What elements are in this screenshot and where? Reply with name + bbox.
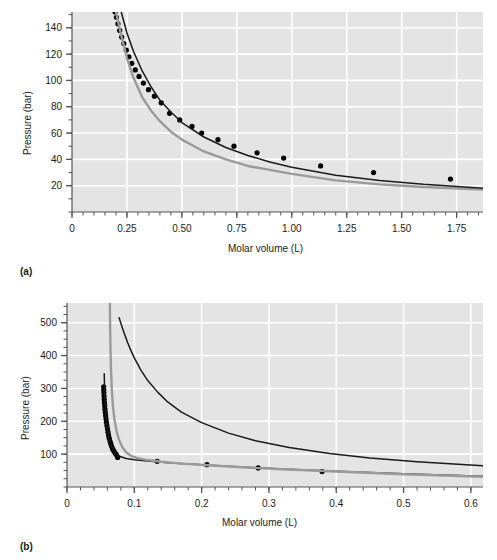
- plot-b-y-tick-label: 500: [40, 317, 57, 328]
- plot-b-y-tick-label: 100: [40, 449, 57, 460]
- plot-b-x-axis-title: Molar volume (L): [222, 517, 297, 528]
- plot-a-y-tick-label: 20: [51, 180, 63, 191]
- plot-a-y-tick-label: 100: [45, 75, 62, 86]
- plot-b-y-tick-label: 200: [40, 416, 57, 427]
- plot-b-x-tick-label: 0.1: [127, 498, 141, 509]
- plot-b-x-tick-label: 0.4: [329, 498, 343, 509]
- plot-a-y-tick-label: 120: [45, 49, 62, 60]
- plot-a-data-point: [133, 67, 138, 72]
- plot-a-x-tick-label: 1.00: [282, 223, 302, 234]
- plot-b-y-tick-label: 300: [40, 383, 57, 394]
- plot-a-data-point: [146, 87, 151, 92]
- plot-b-y-axis-title: Pressure (bar): [20, 376, 31, 440]
- plot-a-data-point: [136, 74, 141, 79]
- plot-a-y-tick-label: 60: [51, 128, 63, 139]
- plot-a-x-tick-label: 1.25: [337, 223, 357, 234]
- plot-b-caption: (b): [20, 541, 33, 552]
- plot-a-x-tick-label: 1.75: [447, 223, 467, 234]
- plot-a-data-point: [141, 80, 146, 85]
- plot-a-caption: (a): [20, 266, 32, 277]
- panel-b: 00.10.20.30.40.50.6100200300400500 Press…: [0, 285, 497, 560]
- plot-a-data-point: [448, 177, 453, 182]
- plot-b-x-tick-label: 0.3: [262, 498, 276, 509]
- plot-a-y-axis-title: Pressure (bar): [22, 91, 33, 155]
- plot-a-data-point: [254, 150, 259, 155]
- plot-b-y-tick-label: 400: [40, 350, 57, 361]
- plot-b-x-tick-label: 0.6: [464, 498, 478, 509]
- plot-a-x-tick-label: 0.25: [117, 223, 137, 234]
- plot-b-x-tick-label: 0.5: [397, 498, 411, 509]
- plot-a-data-point: [371, 170, 376, 175]
- plot-a-data-point: [231, 144, 236, 149]
- plot-a-data-point: [281, 155, 286, 160]
- plot-a-y-tick-label: 140: [45, 22, 62, 33]
- figure-root: 00.250.500.751.001.251.501.7520406080100…: [0, 0, 497, 560]
- panel-a: 00.250.500.751.001.251.501.7520406080100…: [0, 0, 497, 285]
- plot-b-x-tick-label: 0: [64, 498, 70, 509]
- plot-a-data-point: [215, 137, 220, 142]
- plot-a-plot-background: [72, 12, 483, 212]
- plot-a-x-axis-title: Molar volume (L): [228, 243, 303, 254]
- plot-a-x-tick-label: 0: [69, 223, 75, 234]
- plot-b-x-tick-label: 0.2: [195, 498, 209, 509]
- plot-a-x-tick-label: 1.50: [392, 223, 412, 234]
- plot-a-data-point: [318, 163, 323, 168]
- plot-a-x-tick-label: 0.50: [172, 223, 192, 234]
- plot-a-y-tick-label: 80: [51, 101, 63, 112]
- plot-a-x-tick-label: 0.75: [227, 223, 247, 234]
- plot-a-y-tick-label: 40: [51, 154, 63, 165]
